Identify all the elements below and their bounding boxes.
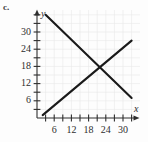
x-axis-label: x (133, 103, 139, 114)
grid-lines (37, 10, 140, 118)
y-axis-label: y (40, 8, 46, 19)
series-increasing-line (43, 41, 132, 116)
y-tick-label-6: 6 (26, 94, 31, 105)
y-tick-label-12: 12 (21, 77, 31, 88)
y-tick-label-18: 18 (21, 60, 31, 71)
y-tick-label-30: 30 (21, 26, 31, 37)
x-tick-label-12: 12 (66, 124, 76, 135)
x-tick-label-24: 24 (101, 124, 111, 135)
figure-container: c. (0, 0, 148, 142)
x-tick-label-18: 18 (84, 124, 94, 135)
x-tick-label-30: 30 (118, 124, 128, 135)
y-tick-label-24: 24 (21, 43, 31, 54)
axes (37, 13, 136, 118)
x-tick-label-6: 6 (52, 124, 57, 135)
coordinate-plot: 6 12 18 24 30 6 12 18 24 30 y x (0, 0, 148, 142)
x-axis-arrow (134, 115, 140, 120)
